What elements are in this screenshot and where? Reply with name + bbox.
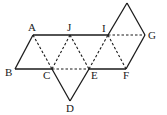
edge-i-f-dashed (108, 35, 126, 69)
net-diagram: A J I G B C E F D (0, 0, 167, 115)
label-d: D (66, 102, 74, 114)
label-g: G (148, 29, 156, 41)
edge-j-e-dashed (70, 35, 89, 69)
label-c: C (43, 69, 50, 81)
edge-e-i-dashed (89, 35, 108, 69)
label-b: B (5, 66, 12, 78)
label-i: I (102, 22, 106, 34)
edge-c-d-solid (52, 69, 70, 101)
label-e: E (91, 69, 98, 81)
edge-d-e-solid (70, 69, 89, 101)
label-j: J (67, 21, 72, 33)
edge-g-f-solid (126, 35, 145, 69)
edge-a-b-solid (15, 35, 33, 69)
edge-apex-g-solid (127, 3, 145, 35)
label-a: A (28, 21, 36, 33)
edge-i-apex-solid (108, 3, 127, 35)
edge-c-j-dashed (52, 35, 70, 69)
label-f: F (123, 69, 129, 81)
edge-a-c-dashed (33, 35, 52, 69)
